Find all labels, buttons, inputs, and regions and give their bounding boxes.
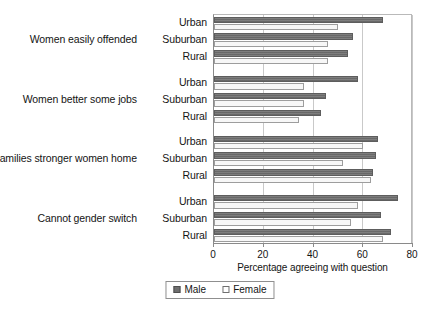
category-group: Families stronger women homeUrbanSuburba… xyxy=(0,133,211,184)
category-group: Women better some jobsUrbanSuburbanRural xyxy=(0,74,211,125)
bar-female xyxy=(214,143,363,149)
sub-category-label: Urban xyxy=(179,195,207,207)
sub-category-label: Urban xyxy=(179,135,207,147)
sub-category-label: Suburban xyxy=(162,33,207,45)
chart-legend: Male Female xyxy=(165,281,274,299)
legend-item-female: Female xyxy=(222,284,266,295)
legend-label-male: Male xyxy=(184,284,206,295)
sub-category-label: Rural xyxy=(182,229,207,241)
x-axis-tick-label: 60 xyxy=(357,249,368,260)
group-label: Families stronger women home xyxy=(0,152,137,164)
sub-category-label: Suburban xyxy=(162,152,207,164)
sub-category-label: Suburban xyxy=(162,93,207,105)
sub-category-label: Rural xyxy=(182,50,207,62)
bar-female xyxy=(214,160,343,166)
x-axis-tick xyxy=(263,243,264,247)
bar-male xyxy=(214,33,353,39)
bar-male xyxy=(214,50,348,56)
legend-swatch-female-icon xyxy=(222,286,229,293)
bar-male xyxy=(214,212,381,218)
x-axis-tick-label: 80 xyxy=(406,249,417,260)
group-label: Cannot gender switch xyxy=(37,212,137,224)
x-axis-tick xyxy=(213,243,214,247)
gridline xyxy=(362,15,363,243)
bar-female xyxy=(214,41,328,47)
bar-male xyxy=(214,76,358,82)
legend-swatch-male-icon xyxy=(173,286,180,293)
category-label-column: Women easily offendedUrbanSuburbanRuralW… xyxy=(0,14,211,243)
bar-female xyxy=(214,83,304,89)
bar-male xyxy=(214,136,378,142)
bar-female xyxy=(214,58,328,64)
bar-female xyxy=(214,100,304,106)
x-axis-tick xyxy=(362,243,363,247)
x-axis-tick-label: 0 xyxy=(210,249,216,260)
gridline xyxy=(412,15,413,243)
bar-female xyxy=(214,219,351,225)
x-axis-tick-label: 20 xyxy=(257,249,268,260)
sub-category-label: Urban xyxy=(179,16,207,28)
legend-item-male: Male xyxy=(173,284,206,295)
bar-male xyxy=(214,195,398,201)
bar-male xyxy=(214,93,326,99)
bar-female xyxy=(214,177,371,183)
x-axis-tick xyxy=(412,243,413,247)
group-label: Women easily offended xyxy=(30,33,137,45)
sub-category-label: Rural xyxy=(182,110,207,122)
bar-female xyxy=(214,202,358,208)
legend-label-female: Female xyxy=(233,284,266,295)
bar-female xyxy=(214,236,383,242)
x-axis-tick-label: 40 xyxy=(307,249,318,260)
sub-category-label: Suburban xyxy=(162,212,207,224)
category-group: Women easily offendedUrbanSuburbanRural xyxy=(0,14,211,65)
bar-female xyxy=(214,117,299,123)
bar-chart: Women easily offendedUrbanSuburbanRuralW… xyxy=(0,0,440,313)
x-axis-tick xyxy=(313,243,314,247)
sub-category-label: Urban xyxy=(179,76,207,88)
bar-female xyxy=(214,24,338,30)
group-label: Women better some jobs xyxy=(23,93,137,105)
sub-category-label: Rural xyxy=(182,169,207,181)
x-axis-title: Percentage agreeing with question xyxy=(213,262,412,273)
plot-area xyxy=(213,14,412,243)
category-group: Cannot gender switchUrbanSuburbanRural xyxy=(0,193,211,244)
bar-male xyxy=(214,169,373,175)
bar-male xyxy=(214,110,321,116)
bar-male xyxy=(214,17,383,23)
bar-male xyxy=(214,229,391,235)
bar-male xyxy=(214,152,376,158)
